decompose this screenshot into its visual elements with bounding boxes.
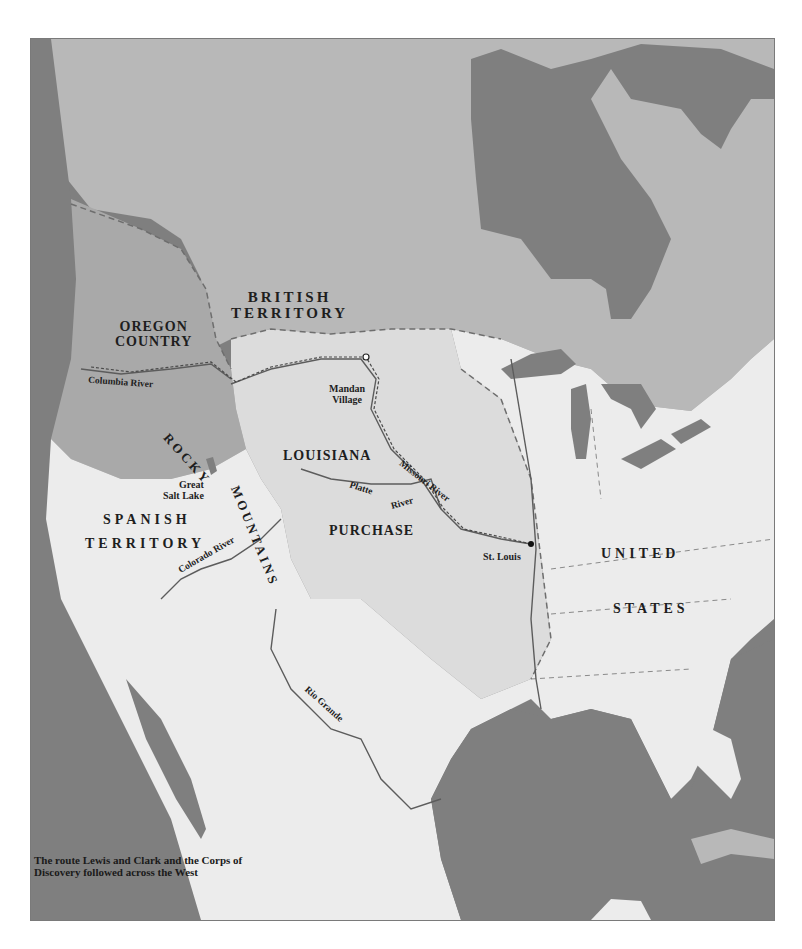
label-states: STATES	[613, 602, 689, 617]
label-great-salt-lake: Great Salt Lake	[163, 480, 204, 501]
mandan-label-line2: Village	[329, 395, 365, 406]
label-purchase: PURCHASE	[329, 524, 414, 539]
label-british-territory: BRITISH TERRITORY	[231, 290, 348, 322]
oregon-label-line2: COUNTRY	[115, 335, 192, 350]
oregon-label-line1: OREGON	[115, 320, 192, 335]
label-united: UNITED	[601, 547, 679, 562]
mandan-label-line1: Mandan	[329, 384, 365, 395]
label-louisiana: LOUISIANA	[283, 449, 371, 464]
st-louis-marker	[528, 541, 534, 547]
label-spanish: SPANISH	[103, 513, 191, 528]
british-label-line1: BRITISH	[231, 290, 348, 306]
caption-line2: Discovery followed across the West	[34, 866, 242, 878]
label-st-louis: St. Louis	[483, 552, 521, 563]
map-caption: The route Lewis and Clark and the Corps …	[34, 854, 242, 878]
label-mandan-village: Mandan Village	[329, 384, 365, 405]
label-oregon-country: OREGON COUNTRY	[115, 320, 192, 349]
caption-line1: The route Lewis and Clark and the Corps …	[34, 854, 242, 866]
map-canvas	[31, 39, 774, 920]
mandan-village-marker	[363, 354, 369, 360]
label-spanish-territory: TERRITORY	[85, 537, 205, 552]
great-salt-label-line1: Great	[163, 480, 204, 491]
map-frame: BRITISH TERRITORY OREGON COUNTRY LOUISIA…	[30, 38, 775, 921]
british-label-line2: TERRITORY	[231, 306, 348, 322]
great-salt-label-line2: Salt Lake	[163, 491, 204, 502]
